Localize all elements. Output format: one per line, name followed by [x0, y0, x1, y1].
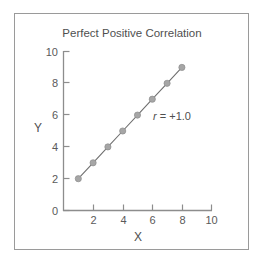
y-axis-ticks: [64, 52, 70, 211]
figure-root: Perfect Positive Correlation 0 2 4 6 8 1…: [0, 0, 265, 264]
y-tick-label-0: 0: [52, 205, 58, 217]
x-tick-label-4: 4: [120, 214, 126, 226]
x-tick-label-8: 8: [179, 214, 185, 226]
x-tick-label-10: 10: [205, 214, 217, 226]
x-axis-tick-labels: 2 4 6 8 10: [90, 214, 217, 226]
y-axis-title: Y: [34, 121, 42, 135]
data-point-4: [134, 112, 140, 118]
data-point-6: [164, 80, 170, 86]
x-tick-label-2: 2: [90, 214, 96, 226]
x-axis-title: X: [134, 230, 142, 244]
data-point-0: [75, 176, 81, 182]
y-tick-label-8: 8: [52, 77, 58, 89]
y-tick-label-2: 2: [52, 173, 58, 185]
y-tick-label-10: 10: [46, 46, 58, 58]
y-tick-label-4: 4: [52, 141, 58, 153]
chart-title: Perfect Positive Correlation: [62, 27, 201, 39]
correlation-scatter-chart: Perfect Positive Correlation 0 2 4 6 8 1…: [0, 0, 265, 264]
y-axis-tick-labels: 0 2 4 6 8 10: [46, 46, 58, 217]
data-point-1: [90, 160, 96, 166]
correlation-annotation: r = +1.0: [153, 110, 191, 122]
x-axis-ticks: [94, 205, 212, 211]
y-tick-label-6: 6: [52, 109, 58, 121]
data-point-5: [149, 96, 155, 102]
data-point-3: [120, 128, 126, 134]
data-point-2: [105, 144, 111, 150]
data-point-7: [179, 64, 185, 70]
x-tick-label-6: 6: [149, 214, 155, 226]
annotation-value: = +1.0: [157, 110, 191, 122]
